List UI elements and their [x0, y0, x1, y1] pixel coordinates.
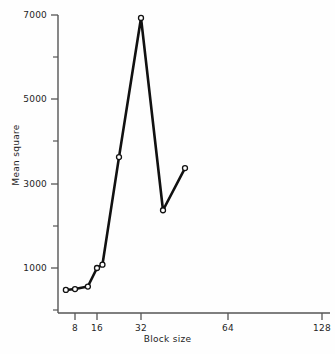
chart-plot-area: 7000 5000 3000 1000 8 16 32 64 128 [0, 0, 335, 354]
data-point-marker [100, 262, 105, 267]
data-point-marker [161, 208, 166, 213]
x-tick-label-32: 32 [135, 323, 147, 333]
x-tick-label-8: 8 [72, 323, 78, 333]
x-axis-title: Block size [0, 334, 335, 344]
x-tick-label-64: 64 [222, 323, 234, 333]
data-point-marker [139, 15, 144, 20]
data-point-marker [73, 287, 78, 292]
y-tick-label-3000: 3000 [23, 179, 47, 189]
y-tick-label-1000: 1000 [23, 263, 47, 273]
y-tick-label-5000: 5000 [23, 94, 47, 104]
data-point-marker [183, 166, 188, 171]
data-point-marker [63, 287, 68, 292]
x-tick-label-16: 16 [91, 323, 103, 333]
series-line [66, 18, 185, 290]
series-markers [63, 15, 187, 292]
data-point-marker [85, 284, 90, 289]
x-axis-ticks [75, 313, 322, 320]
y-axis-title: Mean square [11, 115, 21, 195]
chart-figure: 7000 5000 3000 1000 8 16 32 64 128 Mean … [0, 0, 335, 354]
data-point-marker [95, 266, 100, 271]
data-point-marker [117, 155, 122, 160]
x-tick-label-128: 128 [313, 323, 331, 333]
y-tick-label-7000: 7000 [23, 10, 47, 20]
